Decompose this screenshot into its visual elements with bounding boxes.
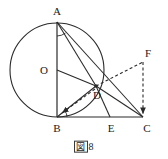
- segment-ad: [57, 22, 96, 86]
- point-label-o: O: [40, 65, 48, 76]
- point-label-a: A: [53, 6, 61, 17]
- figure-caption-mark: 図: [74, 140, 88, 152]
- segment-ac: [57, 22, 143, 117]
- segment-od: [57, 70, 96, 86]
- vertex-dot-d: [94, 84, 98, 88]
- point-label-f: F: [145, 48, 151, 59]
- point-label-e: E: [108, 123, 115, 134]
- figure-canvas: [0, 0, 168, 159]
- point-label-d: D: [93, 90, 101, 101]
- point-label-c: C: [143, 123, 150, 134]
- segment-db-dashed: [62, 89, 95, 113]
- figure-caption: 図8: [74, 140, 94, 153]
- segment-df-dashed: [96, 62, 143, 86]
- figure-caption-number: 8: [89, 141, 95, 152]
- geometry-figure: A O D F B E C 図8: [0, 0, 168, 159]
- point-label-b: B: [53, 123, 60, 134]
